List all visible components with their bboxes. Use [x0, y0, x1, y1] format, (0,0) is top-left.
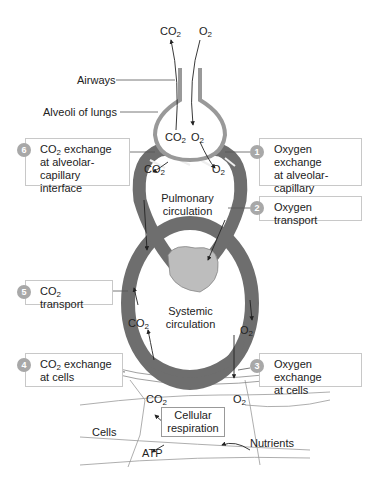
step-4-line1: CO2 exchange	[40, 358, 116, 371]
step-2-line1: Oxygen transport	[274, 201, 355, 227]
step-2-box: Oxygen transport	[259, 196, 362, 221]
co2-pulmonary-label: CO2	[144, 163, 165, 176]
o2-pulmonary-label: O2	[212, 163, 225, 176]
co2-alveolus-label: CO2	[165, 131, 186, 144]
step-4-box: CO2 exchange at cells	[25, 353, 123, 387]
o2-systemic-label: O2	[240, 324, 253, 337]
step-3-line2: at cells	[274, 384, 355, 397]
cellular-line1: Cellular	[162, 409, 224, 422]
systemic-line2: circulation	[163, 318, 218, 331]
step-1-line1: Oxygen exchange	[274, 143, 355, 169]
cellular-respiration-box: Cellular respiration	[161, 407, 225, 437]
airways-label: Airways	[77, 74, 116, 87]
cellular-line2: respiration	[162, 422, 224, 435]
alveoli-label: Alveoli of lungs	[43, 106, 117, 119]
systemic-circulation-label: Systemic circulation	[163, 305, 218, 331]
alveolus	[155, 68, 225, 160]
step-6-line3: interface	[40, 182, 123, 195]
pulmonary-line2: circulation	[160, 205, 215, 218]
step-1-badge: 1	[250, 145, 264, 159]
systemic-line1: Systemic	[163, 305, 218, 318]
step-6-line2: at alveolar-capillary	[40, 156, 123, 182]
step-3-badge: 3	[250, 359, 264, 373]
step-1-line2: at alveolar-capillary	[274, 169, 355, 195]
step-3-box: Oxygen exchange at cells	[259, 353, 362, 387]
pulmonary-circulation-label: Pulmonary circulation	[160, 192, 215, 218]
pulmonary-line1: Pulmonary	[160, 192, 215, 205]
step-3-line1: Oxygen exchange	[274, 358, 355, 384]
step-4-badge: 4	[17, 358, 31, 372]
step-2-badge: 2	[250, 201, 264, 215]
step-6-badge: 6	[17, 143, 31, 157]
cells-label: Cells	[92, 426, 116, 439]
step-1-box: Oxygen exchange at alveolar-capillary in…	[259, 138, 362, 186]
o2-cell-label: O2	[233, 393, 246, 406]
step-6-line1: CO2 exchange	[40, 143, 123, 156]
step-6-box: CO2 exchange at alveolar-capillary inter…	[25, 138, 130, 186]
atp-label: ATP	[142, 447, 163, 460]
co2-out-label: CO2	[160, 25, 181, 38]
step-5-badge: 5	[17, 285, 31, 299]
o2-alveolus-label: O2	[191, 131, 204, 144]
co2-cell-label: CO2	[146, 393, 167, 406]
step-5-line1: CO2 transport	[40, 285, 106, 311]
co2-systemic-label: CO2	[128, 317, 149, 330]
step-5-box: CO2 transport	[25, 280, 113, 305]
step-4-line2: at cells	[40, 371, 116, 384]
o2-in-label: O2	[199, 25, 212, 38]
nutrients-label: Nutrients	[250, 437, 294, 450]
